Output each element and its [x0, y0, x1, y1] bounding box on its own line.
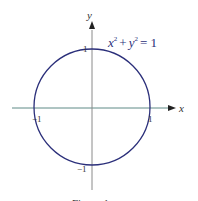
tick-x-neg: −1	[32, 114, 42, 124]
eq-rhs: = 1	[140, 35, 157, 50]
eq-y-exp: 2	[134, 35, 138, 43]
tick-y-neg: −1	[77, 164, 87, 174]
y-axis-arrow-icon	[89, 21, 95, 29]
y-axis-label: y	[86, 9, 92, 21]
unit-circle-diagram: x y 1 −1 1 −1 x2+y2= 1 Figure 1	[0, 0, 198, 201]
circle-equation: x2+y2= 1	[107, 35, 157, 50]
x-axis-label: x	[178, 102, 184, 114]
figure-caption: Figure 1	[72, 197, 109, 201]
tick-y-pos: 1	[83, 44, 88, 54]
eq-x-exp: 2	[114, 35, 118, 43]
x-axis-arrow-icon	[168, 105, 176, 111]
tick-x-pos: 1	[148, 114, 153, 124]
eq-plus: +	[119, 35, 126, 50]
svg-text:x2+y2= 1: x2+y2= 1	[107, 35, 157, 50]
